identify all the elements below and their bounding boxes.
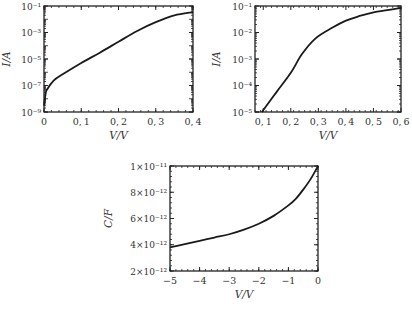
y-tick-label: 10⁻⁹	[21, 108, 41, 118]
y-tick-label: 10⁻¹	[232, 2, 252, 12]
plot-frame	[44, 6, 193, 112]
x-tick-label: −2	[252, 275, 266, 286]
x-tick-label: 0, 4	[184, 116, 201, 127]
x-tick-label: 0, 2	[110, 116, 127, 127]
y-tick-label: 4×10⁻¹²	[130, 240, 167, 250]
x-tick-label: 0, 4	[337, 116, 354, 127]
x-tick-label: 0, 1	[73, 116, 90, 127]
x-tick-label: −5	[163, 275, 177, 286]
iv-chart-1: 00, 10, 20, 30, 410⁻⁹10⁻⁷10⁻⁵10⁻³10⁻¹V/V…	[0, 0, 412, 317]
x-axis-label: V/V	[235, 288, 255, 300]
plot-frame	[170, 166, 318, 271]
y-tick-label: 10⁻³	[232, 55, 252, 65]
y-tick-label: 2×10⁻¹²	[130, 267, 167, 277]
iv-forward-2-chart: 0, 10, 20, 30, 40, 50, 610⁻⁵10⁻⁴10⁻³10⁻²…	[210, 2, 410, 142]
y-axis-label: C/F	[102, 208, 114, 228]
y-tick-label: 10⁻⁷	[21, 81, 41, 91]
data-curve	[44, 12, 193, 106]
plot-frame	[255, 6, 401, 112]
y-tick-label: 10⁻⁵	[232, 108, 252, 118]
y-tick-label: 10⁻³	[21, 28, 41, 38]
y-tick-label: 10⁻⁵	[21, 55, 41, 65]
y-tick-label: 10⁻¹	[21, 2, 41, 12]
x-tick-label: 0, 3	[310, 116, 327, 127]
y-tick-label: 10⁻⁴	[232, 81, 252, 91]
iv-forward-1-chart: 00, 10, 20, 30, 410⁻⁹10⁻⁷10⁻⁵10⁻³10⁻¹V/V…	[0, 2, 202, 142]
y-tick-label: 1×10⁻¹¹	[130, 162, 167, 172]
x-tick-label: −3	[222, 275, 236, 286]
x-tick-label: 0	[41, 116, 47, 127]
y-tick-label: 10⁻²	[232, 28, 252, 38]
x-tick-label: 0	[315, 275, 321, 286]
x-axis-label: V/V	[319, 129, 339, 141]
x-tick-label: 0, 6	[392, 116, 409, 127]
data-curve	[170, 166, 318, 247]
cv-reverse-chart: −5−4−3−2−102×10⁻¹²4×10⁻¹²6×10⁻¹²8×10⁻¹²1…	[102, 162, 321, 301]
x-tick-label: −1	[281, 275, 295, 286]
y-axis-label: I/A	[210, 51, 222, 68]
y-tick-label: 6×10⁻¹²	[130, 214, 167, 224]
y-tick-label: 8×10⁻¹²	[130, 188, 167, 198]
x-axis-label: V/V	[109, 129, 129, 141]
data-curve	[262, 8, 401, 112]
x-tick-label: −4	[193, 275, 207, 286]
x-tick-label: 0, 2	[282, 116, 299, 127]
x-tick-label: 0, 3	[147, 116, 164, 127]
y-axis-label: I/A	[0, 51, 12, 68]
x-tick-label: 0, 5	[365, 116, 382, 127]
x-tick-label: 0, 1	[255, 116, 272, 127]
